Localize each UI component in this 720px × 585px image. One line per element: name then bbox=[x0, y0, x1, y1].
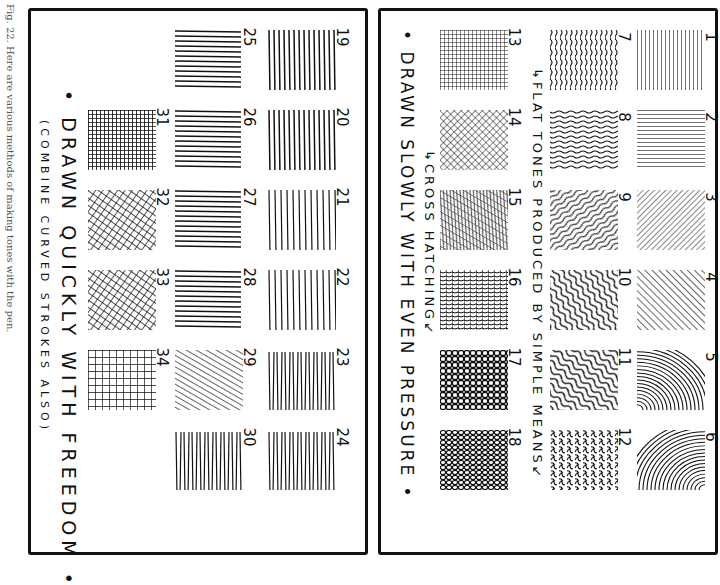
tone-swatch-31 bbox=[88, 110, 156, 174]
figure-caption: Fig. 22. Here are various methods of mak… bbox=[5, 4, 16, 333]
tone-swatch-34 bbox=[88, 350, 156, 414]
swatch-number: 4 bbox=[702, 265, 720, 289]
swatch-number: 13 bbox=[505, 25, 523, 49]
tone-swatch-17 bbox=[440, 350, 508, 414]
swatch-number: 15 bbox=[505, 185, 523, 209]
swatch-number: 21 bbox=[333, 185, 351, 209]
swatch-number: 17 bbox=[505, 345, 523, 369]
tone-swatch-10 bbox=[550, 270, 618, 334]
swatch-number: 29 bbox=[240, 345, 258, 369]
swatch-number: 20 bbox=[333, 105, 351, 129]
tone-swatch-22 bbox=[268, 270, 336, 334]
tone-swatch-3 bbox=[637, 190, 705, 254]
tone-swatch-13 bbox=[440, 30, 508, 94]
swatch-number: 9 bbox=[615, 185, 633, 209]
swatch-number: 18 bbox=[505, 425, 523, 449]
tone-swatch-24 bbox=[268, 430, 336, 494]
tone-swatch-11 bbox=[550, 350, 618, 414]
swatch-number: 27 bbox=[240, 185, 258, 209]
tone-swatch-27 bbox=[175, 190, 243, 254]
tone-swatch-20 bbox=[268, 110, 336, 174]
tone-swatch-30 bbox=[175, 430, 243, 494]
tone-swatch-9 bbox=[550, 190, 618, 254]
tone-swatch-15 bbox=[440, 190, 508, 254]
swatch-number: 23 bbox=[333, 345, 351, 369]
swatch-number: 32 bbox=[153, 185, 171, 209]
tone-swatch-23 bbox=[268, 350, 336, 414]
swatch-number: 1 bbox=[702, 25, 720, 49]
swatch-number: 5 bbox=[702, 345, 720, 369]
tone-swatch-25 bbox=[175, 30, 243, 94]
swatch-number: 12 bbox=[615, 425, 633, 449]
cross-hatching-label: ↳CROSS HATCHING↙ bbox=[422, 150, 437, 336]
swatch-number: 7 bbox=[615, 25, 633, 49]
tone-swatch-26 bbox=[175, 110, 243, 174]
tone-swatch-28 bbox=[175, 270, 243, 334]
tone-swatch-8 bbox=[550, 110, 618, 174]
tone-swatch-16 bbox=[440, 270, 508, 334]
swatch-number: 28 bbox=[240, 265, 258, 289]
tone-swatch-6 bbox=[637, 430, 705, 494]
tone-swatch-29 bbox=[175, 350, 243, 414]
tone-swatch-5 bbox=[637, 350, 705, 414]
tone-swatch-19 bbox=[268, 30, 336, 94]
swatch-number: 16 bbox=[505, 265, 523, 289]
swatch-number: 3 bbox=[702, 185, 720, 209]
tone-swatch-32 bbox=[88, 190, 156, 254]
tone-swatch-1 bbox=[637, 30, 705, 94]
tone-swatch-7 bbox=[550, 30, 618, 94]
tone-swatch-4 bbox=[637, 270, 705, 334]
flat-tones-label: ↳FLAT TONES PRODUCED BY SIMPLE MEANS↙ bbox=[530, 68, 545, 480]
swatch-number: 8 bbox=[615, 105, 633, 129]
left-panel-title: • DRAWN QUICKLY WITH FREEDOM • bbox=[58, 90, 80, 585]
tone-swatch-33 bbox=[88, 270, 156, 334]
swatch-number: 24 bbox=[333, 425, 351, 449]
tone-swatch-14 bbox=[440, 110, 508, 174]
swatch-number: 22 bbox=[333, 265, 351, 289]
swatch-number: 19 bbox=[333, 25, 351, 49]
swatch-number: 31 bbox=[153, 105, 171, 129]
left-panel-subtitle: (COMBINE CURVED STROKES ALSO) bbox=[38, 120, 51, 433]
swatch-number: 30 bbox=[240, 425, 258, 449]
swatch-number: 34 bbox=[153, 345, 171, 369]
right-panel-title: • DRAWN SLOWLY WITH EVEN PRESSURE • bbox=[397, 30, 417, 500]
tone-swatch-12 bbox=[550, 430, 618, 494]
swatch-number: 14 bbox=[505, 105, 523, 129]
swatch-number: 10 bbox=[615, 265, 633, 289]
swatch-number: 33 bbox=[153, 265, 171, 289]
tone-swatch-21 bbox=[268, 190, 336, 254]
swatch-number: 11 bbox=[615, 345, 633, 369]
swatch-number: 26 bbox=[240, 105, 258, 129]
swatch-number: 6 bbox=[702, 425, 720, 449]
tone-swatch-2 bbox=[637, 110, 705, 174]
swatch-number: 25 bbox=[240, 25, 258, 49]
swatch-number: 2 bbox=[702, 105, 720, 129]
tone-swatch-18 bbox=[440, 430, 508, 494]
